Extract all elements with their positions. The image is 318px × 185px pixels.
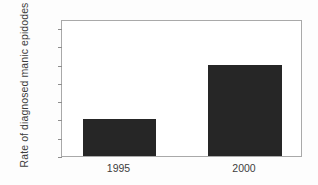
y-axis-tick-mark <box>58 66 62 67</box>
y-axis-tick-mark <box>58 84 62 85</box>
y-axis-tick-mark <box>58 157 62 158</box>
x-axis-tick-label-1995: 1995 <box>82 161 155 175</box>
y-axis-tick-mark <box>58 120 62 121</box>
y-axis-tick-mark <box>58 47 62 48</box>
plot-area: 0.50.70.91.11.31.51.71.9 <box>61 20 302 157</box>
y-axis-tick-mark <box>58 139 62 140</box>
x-axis-tick-label-2000: 2000 <box>207 161 281 175</box>
bar-chart-figure: Rate of diagnosed manic epidodes 0.50.70… <box>0 0 318 185</box>
y-axis-tick-mark <box>58 29 62 30</box>
bar-2000 <box>208 65 282 156</box>
y-axis-tick-mark <box>58 102 62 103</box>
bar-1995 <box>83 119 156 156</box>
y-axis-title: Rate of diagnosed manic epidodes <box>17 0 31 170</box>
